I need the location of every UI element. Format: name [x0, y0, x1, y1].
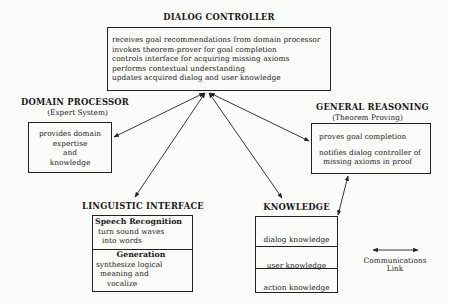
general-reasoning-line: missing axioms in proof [319, 157, 430, 167]
knowledge-item-label: dialog knowledge [264, 235, 330, 244]
general-reasoning-line: proves goal completion [319, 132, 430, 142]
linguistic-interface-title: LINGUISTIC INTERFACE [74, 201, 212, 211]
speech-recognition-line: turn sound waves [95, 227, 192, 237]
link-dialog-reasoning [210, 93, 309, 141]
general-reasoning-line: notifies dialog controller of [319, 148, 430, 158]
knowledge-item-dialog: dialog knowledge [256, 217, 337, 247]
link-dialog-knowledge [209, 93, 282, 198]
speech-recognition-heading: Speech Recognition [95, 217, 192, 227]
domain-processor-line: provides domain [29, 129, 111, 139]
generation-heading: Generation [96, 250, 192, 260]
knowledge-box: dialog knowledge user knowledge action k… [255, 216, 338, 293]
knowledge-item-label: action knowledge [263, 283, 329, 292]
link-dialog-linguistic [135, 93, 205, 197]
general-reasoning-subtitle: (Theorem Proving) [305, 113, 430, 122]
dialog-controller-line: updates acquired dialog and user knowled… [112, 73, 330, 83]
domain-processor-title: DOMAIN PROCESSOR [10, 97, 140, 107]
general-reasoning-title: GENERAL REASONING [305, 102, 440, 112]
legend-label: Communications Link [355, 257, 435, 272]
speech-recognition-line: into words [95, 236, 192, 246]
knowledge-title: KNOWLEDGE [255, 202, 338, 212]
dialog-controller-line: invokes theorem-prover for goal completi… [112, 45, 330, 55]
general-reasoning-box: proves goal completion notifies dialog c… [311, 123, 431, 174]
knowledge-item-user: user knowledge [256, 247, 337, 269]
link-knowledge-reasoning [338, 176, 348, 215]
dialog-controller-line: controls interface for acquiring missing… [112, 54, 330, 64]
generation-section: Generation synthesize logical meaning an… [93, 250, 192, 292]
dialog-controller-title: DIALOG CONTROLLER [107, 12, 331, 22]
dialog-controller-line: performs contextual understanding [112, 64, 330, 74]
generation-line: synthesize logical [96, 260, 192, 270]
generation-line: vocalize [96, 279, 192, 289]
dialog-controller-box: receives goal recommendations from domai… [107, 27, 331, 91]
knowledge-item-action: action knowledge [256, 269, 337, 293]
domain-processor-line: knowledge [29, 158, 111, 168]
speech-recognition-section: Speech Recognition turn sound waves into… [93, 216, 192, 250]
domain-processor-subtitle: (Expert System) [10, 108, 145, 117]
domain-processor-line: and [29, 148, 111, 158]
domain-processor-line: expertise [29, 139, 111, 149]
legend-label-line2: Link [355, 265, 435, 273]
linguistic-interface-box: Speech Recognition turn sound waves into… [92, 215, 193, 292]
dialog-controller-line: receives goal recommendations from domai… [112, 35, 330, 45]
domain-processor-box: provides domain expertise and knowledge [28, 122, 112, 173]
generation-line: meaning and [96, 269, 192, 279]
